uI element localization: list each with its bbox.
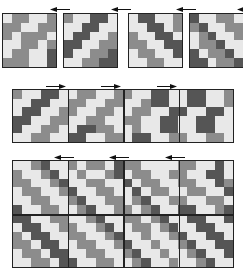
tile-cell (50, 107, 59, 116)
tile-cell (13, 116, 22, 125)
tile-cell (21, 40, 30, 49)
tile-cell (22, 116, 31, 125)
tile-cell (160, 179, 169, 188)
tile-cell (22, 179, 31, 188)
tile-cell (164, 32, 173, 41)
tile-cell (12, 40, 21, 49)
tile-cell (160, 249, 169, 258)
tile-cell (206, 196, 215, 205)
tile-cell (86, 90, 95, 99)
tile-cell (22, 107, 31, 116)
tile-cell (21, 23, 30, 32)
tile-cell (151, 205, 160, 214)
tile-cell (132, 116, 141, 125)
tile-cell (68, 107, 77, 116)
tile-cell (96, 179, 105, 188)
tile-cell (138, 32, 147, 41)
tile-cell (114, 90, 123, 99)
tile-cell (141, 125, 150, 134)
tile-cell (38, 58, 47, 67)
tile-cell (147, 32, 156, 41)
tile-cell (215, 107, 224, 116)
tile-cell (82, 49, 91, 58)
tile-cell (64, 32, 73, 41)
tile-cell (41, 170, 50, 179)
tile-cell (216, 14, 225, 23)
tile-cell (141, 170, 150, 179)
tile-cell (132, 170, 141, 179)
tile-cell (73, 49, 82, 58)
tile-cell (3, 32, 12, 41)
tile-cell (225, 32, 234, 41)
tile-cell (68, 187, 77, 196)
tile-cell (151, 107, 160, 116)
tile-cell (141, 107, 150, 116)
tile-cell (77, 133, 86, 142)
tile-cell (77, 161, 86, 170)
tile-cell (169, 205, 178, 214)
tile-cell (22, 161, 31, 170)
tile-cell (132, 179, 141, 188)
tile-cell (199, 40, 208, 49)
tile-cell (22, 90, 31, 99)
tile-cell (187, 133, 196, 142)
tile-cell (99, 32, 108, 41)
tile-cell (31, 187, 40, 196)
tile-cell (86, 240, 95, 249)
tile-cell (196, 187, 205, 196)
tile-cell (13, 161, 22, 170)
tile-cell (31, 240, 40, 249)
tile-cell (196, 232, 205, 241)
tile-cell (77, 223, 86, 232)
tile-cell (160, 133, 169, 142)
tile-cell (41, 99, 50, 108)
tile-cell (41, 107, 50, 116)
tile-cell (196, 161, 205, 170)
tile-cell (86, 133, 95, 142)
tile-cell (13, 232, 22, 241)
tile-cell (114, 196, 123, 205)
tile-cell (86, 125, 95, 134)
tile-cell (206, 179, 215, 188)
tile-cell (13, 223, 22, 232)
tile-cell (215, 196, 224, 205)
tile-cell (132, 258, 141, 267)
arrow-left-icon (111, 7, 131, 11)
tile-cell (68, 161, 77, 170)
tile-cell (215, 170, 224, 179)
tile-cell (73, 58, 82, 67)
tile-cell (141, 249, 150, 258)
tile-cell (196, 249, 205, 258)
tile-cell (50, 116, 59, 125)
tile-cell (141, 99, 150, 108)
tile-cell (77, 107, 86, 116)
tile-cell (31, 205, 40, 214)
tile-cell (3, 23, 12, 32)
tile-cell (173, 49, 182, 58)
tile-cell (68, 90, 77, 99)
tile-cell (22, 240, 31, 249)
tile-cell (41, 249, 50, 258)
tile-cell (169, 196, 178, 205)
tile-cell (13, 90, 22, 99)
tile-cell (96, 116, 105, 125)
tile-cell (114, 179, 123, 188)
tile-cell (50, 196, 59, 205)
tile-cell (151, 90, 160, 99)
tile-cell (96, 133, 105, 142)
tile-cell (215, 205, 224, 214)
tile-cell (151, 161, 160, 170)
tile-cell (141, 187, 150, 196)
tile-cell (147, 49, 156, 58)
tile-cell (86, 170, 95, 179)
tile-cell (105, 107, 114, 116)
tile-cell (41, 223, 50, 232)
tile-cell (224, 232, 233, 241)
tile-cell (224, 240, 233, 249)
tile-cell (41, 90, 50, 99)
tile-cell (13, 99, 22, 108)
tile-cell (164, 40, 173, 49)
tile-cell (169, 125, 178, 134)
tile-cell (196, 90, 205, 99)
tile-cell (151, 240, 160, 249)
